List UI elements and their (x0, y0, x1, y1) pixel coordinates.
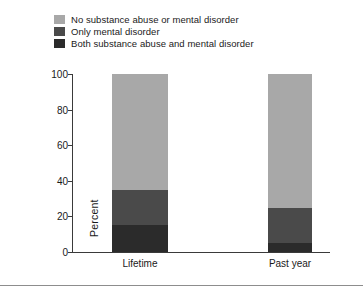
stacked-bar-past-year[interactable] (268, 74, 312, 252)
chart-legend: No substance abuse or mental disorder On… (54, 14, 354, 50)
y-tick-label-80: 80 (57, 104, 68, 115)
x-axis-line (72, 252, 330, 253)
plot-area: Percent 100 80 60 40 20 0 (72, 74, 330, 252)
y-tick-label-0: 0 (62, 247, 68, 258)
legend-swatch-icon-both (54, 39, 65, 48)
bar-group-lifetime: Lifetime (112, 74, 168, 252)
y-axis-line (72, 74, 73, 252)
stacked-bar-lifetime[interactable] (112, 74, 168, 252)
y-tick-label-60: 60 (57, 140, 68, 151)
y-tick-label-20: 20 (57, 211, 68, 222)
x-tick-label-past-year: Past year (268, 258, 312, 269)
legend-swatch-icon-no-disorder (54, 15, 65, 24)
legend-item-no-disorder: No substance abuse or mental disorder (54, 14, 354, 25)
bar-group-past-year: Past year (268, 74, 312, 252)
bar-segment-lifetime-only-mental[interactable] (112, 190, 168, 226)
bar-segment-past-year-no-disorder[interactable] (268, 74, 312, 208)
legend-label-only-mental: Only mental disorder (71, 26, 160, 37)
y-tick-label-40: 40 (57, 175, 68, 186)
stacked-bar-chart-figure: No substance abuse or mental disorder On… (0, 0, 363, 296)
y-tick-label-100: 100 (51, 69, 68, 80)
bar-segment-past-year-only-mental[interactable] (268, 208, 312, 244)
x-tick-label-lifetime: Lifetime (112, 258, 168, 269)
legend-label-both: Both substance abuse and mental disorder (71, 38, 254, 49)
bar-segment-lifetime-no-disorder[interactable] (112, 74, 168, 190)
y-axis-title: Percent (88, 199, 100, 237)
bar-segment-past-year-both[interactable] (268, 243, 312, 252)
bottom-divider (0, 285, 363, 286)
bar-segment-lifetime-both[interactable] (112, 225, 168, 252)
legend-swatch-icon-only-mental (54, 27, 65, 36)
legend-label-no-disorder: No substance abuse or mental disorder (71, 14, 239, 25)
legend-item-both: Both substance abuse and mental disorder (54, 38, 354, 49)
legend-item-only-mental: Only mental disorder (54, 26, 354, 37)
